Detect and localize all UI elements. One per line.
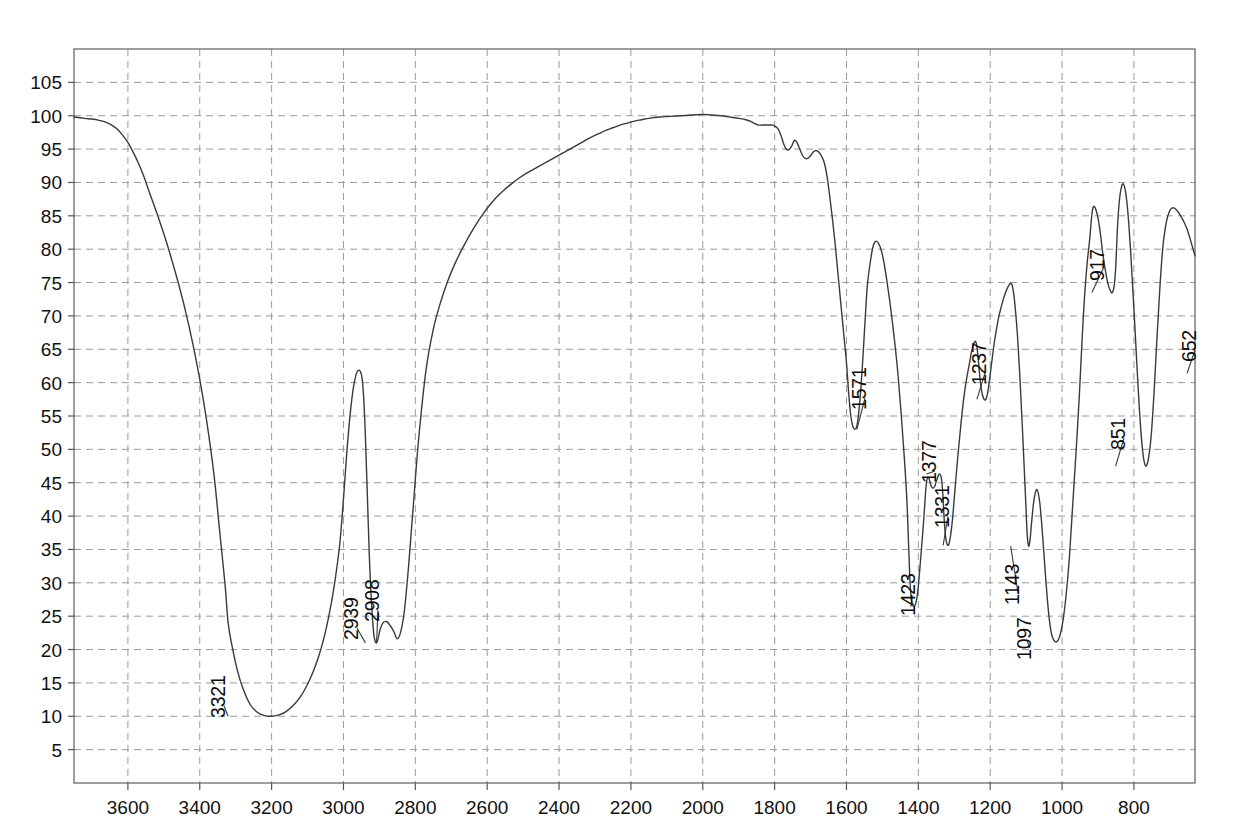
x-tick-label: 2000 (682, 797, 724, 818)
x-tick-label: 1800 (753, 797, 795, 818)
y-tick-label: 80 (41, 239, 62, 260)
peak-label: 2908 (361, 579, 383, 622)
y-tick-label: 65 (41, 339, 62, 360)
x-tick-label: 2800 (394, 797, 436, 818)
y-tick-label: 5 (51, 740, 62, 761)
peak-label: 3321 (207, 675, 229, 718)
y-tick-label: 30 (41, 573, 62, 594)
peak-label: 1097 (1013, 617, 1035, 660)
y-tick-label: 15 (41, 673, 62, 694)
y-tick-label: 105 (30, 72, 62, 93)
x-tick-label: 2400 (538, 797, 580, 818)
y-tick-label: 95 (41, 139, 62, 160)
peak-label: 851 (1107, 418, 1129, 450)
x-tick-label: 800 (1118, 797, 1150, 818)
peak-label: 2939 (340, 597, 362, 640)
x-tick-label: 3400 (179, 797, 221, 818)
y-tick-label: 45 (41, 473, 62, 494)
y-tick-label: 60 (41, 373, 62, 394)
peak-label: 652 (1178, 330, 1200, 362)
y-tick-label: 90 (41, 172, 62, 193)
x-tick-label: 1200 (969, 797, 1011, 818)
peak-label: 1377 (918, 440, 940, 483)
peak-label: 1423 (897, 573, 919, 616)
peak-label: 1237 (968, 342, 990, 385)
ir-spectrum-figure: 5101520253035404550556065707580859095100… (0, 0, 1235, 839)
x-tick-label: 1400 (897, 797, 939, 818)
grid-layer (74, 49, 1195, 783)
y-tick-label: 100 (30, 106, 62, 127)
peak-label: 1331 (931, 485, 953, 528)
y-tick-label: 10 (41, 706, 62, 727)
y-tick-label: 85 (41, 206, 62, 227)
x-tick-label: 3200 (250, 797, 292, 818)
peak-label: 1143 (1001, 564, 1023, 605)
x-tick-label: 3000 (322, 797, 364, 818)
peak-label-layer: 3321293929081571142313771331123711431097… (207, 249, 1200, 718)
ir-spectrum-chart: 5101520253035404550556065707580859095100… (0, 0, 1235, 839)
y-tick-label: 50 (41, 439, 62, 460)
y-tick-label: 35 (41, 539, 62, 560)
x-tick-label: 1000 (1041, 797, 1083, 818)
y-tick-label: 75 (41, 273, 62, 294)
y-tick-label: 55 (41, 406, 62, 427)
y-tick-label: 70 (41, 306, 62, 327)
axis-labels-x: 3600340032003000280026002400220020001800… (107, 797, 1150, 818)
x-tick-label: 1600 (825, 797, 867, 818)
x-tick-label: 3600 (107, 797, 149, 818)
x-tick-label: 2600 (466, 797, 508, 818)
peak-label: 917 (1086, 249, 1108, 281)
y-tick-label: 25 (41, 606, 62, 627)
axis-labels-y: 5101520253035404550556065707580859095100… (30, 72, 62, 760)
y-tick-label: 40 (41, 506, 62, 527)
x-tick-label: 2200 (610, 797, 652, 818)
peak-label: 1571 (848, 367, 870, 410)
y-tick-label: 20 (41, 640, 62, 661)
